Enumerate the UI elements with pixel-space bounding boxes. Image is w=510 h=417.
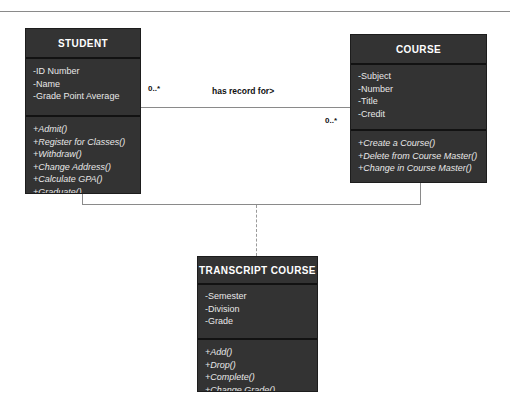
operation-item: +Add() (205, 346, 310, 359)
operation-item: +Graduate() (33, 186, 133, 195)
multiplicity-course-end: 0..* (325, 116, 337, 125)
class-attributes-transcript-course: -Semester -Division -Grade (198, 285, 317, 338)
operation-item: +Change in Course Master() (358, 162, 479, 175)
operation-item: +Change Grade() (205, 384, 310, 393)
association-line-student-course (141, 107, 350, 108)
attribute-item: -Title (358, 95, 479, 108)
class-operations-transcript-course: +Add() +Drop() +Complete() +Change Grade… (198, 340, 317, 392)
association-label: has record for> (212, 86, 274, 96)
class-box-student[interactable]: STUDENT -ID Number -Name -Grade Point Av… (25, 28, 141, 194)
operation-item: +Change Address() (33, 161, 133, 174)
class-name-student: STUDENT (26, 29, 140, 57)
class-operations-course: +Create a Course() +Delete from Course M… (351, 131, 486, 181)
operation-item: +Calculate GPA() (33, 173, 133, 186)
attribute-item: -Name (33, 78, 133, 91)
operation-item: +Create a Course() (358, 137, 479, 150)
top-horizontal-rule (0, 11, 510, 12)
class-name-transcript-course: TRANSCRIPT COURSE (198, 257, 317, 283)
operation-item: +Withdraw() (33, 148, 133, 161)
operation-item: +Register for Classes() (33, 136, 133, 149)
uml-class-diagram-canvas: STUDENT -ID Number -Name -Grade Point Av… (0, 0, 510, 417)
operation-item: +Admit() (33, 123, 133, 136)
attribute-item: -Semester (205, 290, 310, 303)
class-box-transcript-course[interactable]: TRANSCRIPT COURSE -Semester -Division -G… (197, 256, 318, 392)
class-attributes-course: -Subject -Number -Title -Credit (351, 65, 486, 129)
association-class-bracket-horizontal (82, 204, 421, 205)
attribute-item: -Credit (358, 108, 479, 121)
class-operations-student: +Admit() +Register for Classes() +Withdr… (26, 117, 140, 194)
association-class-dashed-link (256, 205, 257, 256)
operation-item: +Complete() (205, 371, 310, 384)
association-class-bracket-right (420, 183, 421, 205)
attribute-item: -Number (358, 83, 479, 96)
attribute-item: -Grade Point Average (33, 90, 133, 103)
class-box-course[interactable]: COURSE -Subject -Number -Title -Credit +… (350, 34, 487, 183)
attribute-item: -Subject (358, 70, 479, 83)
class-name-course: COURSE (351, 35, 486, 63)
multiplicity-student-end: 0..* (148, 84, 160, 93)
operation-item: +Drop() (205, 359, 310, 372)
class-attributes-student: -ID Number -Name -Grade Point Average (26, 59, 140, 115)
attribute-item: -ID Number (33, 65, 133, 78)
attribute-item: -Division (205, 303, 310, 316)
operation-item: +Delete from Course Master() (358, 150, 479, 163)
attribute-item: -Grade (205, 315, 310, 328)
